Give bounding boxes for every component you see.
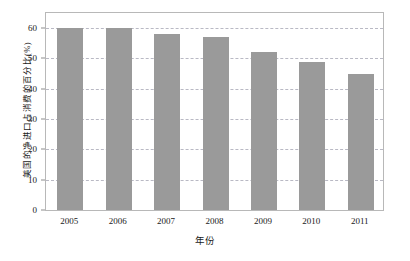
bar[interactable] (57, 28, 83, 210)
y-axis-tick-label: 50 (7, 53, 37, 63)
x-axis-tick-label: 2011 (337, 216, 383, 226)
x-axis-tick-label: 2009 (240, 216, 286, 226)
x-axis-tick-label: 2005 (46, 216, 92, 226)
bar[interactable] (106, 28, 132, 210)
gridline (46, 28, 383, 29)
y-axis-tick-label: 30 (7, 114, 37, 124)
y-axis-tick-label: 10 (7, 175, 37, 185)
bar[interactable] (251, 52, 277, 210)
y-axis-tick-label: 0 (7, 205, 37, 215)
x-axis-tick-label: 2006 (95, 216, 141, 226)
x-axis-tick-label: 2007 (143, 216, 189, 226)
bar[interactable] (154, 34, 180, 210)
x-axis-tick-label: 2008 (192, 216, 238, 226)
bar[interactable] (348, 74, 374, 210)
y-axis-tick-label: 20 (7, 144, 37, 154)
plot-area (45, 12, 384, 211)
bar[interactable] (299, 62, 325, 211)
y-axis-tick-label: 60 (7, 23, 37, 33)
chart-figure: 美国的净进口占消费的百分比(%) 0102030405060 200520062… (0, 0, 410, 261)
x-axis-title: 年份 (0, 233, 410, 247)
bar[interactable] (203, 37, 229, 210)
y-axis-tick-label: 40 (7, 84, 37, 94)
x-axis-tick-label: 2010 (288, 216, 334, 226)
